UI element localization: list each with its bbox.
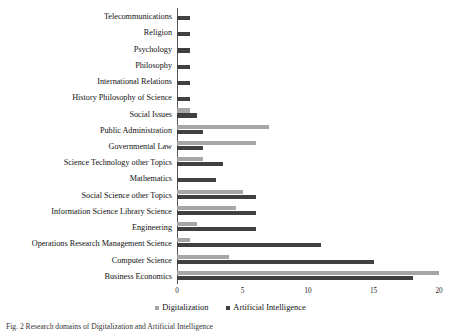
- bar-digitalization: [177, 141, 256, 145]
- category-label: Public Administration: [100, 125, 172, 134]
- bar-row: Engineering: [177, 219, 439, 235]
- bar-artificial-intelligence: [177, 97, 190, 101]
- x-tick-label: 15: [370, 287, 377, 295]
- bar-row: Philosophy: [177, 57, 439, 73]
- legend-item[interactable]: Digitalization: [155, 303, 208, 312]
- bar-artificial-intelligence: [177, 65, 190, 69]
- legend-swatch-icon: [226, 306, 230, 310]
- bar-row: Social Science other Topics: [177, 187, 439, 203]
- bar-artificial-intelligence: [177, 32, 190, 36]
- category-label: Science Technology other Topics: [64, 158, 172, 167]
- bar-row: Social Issues: [177, 105, 439, 121]
- bar-row: Governmental Law: [177, 138, 439, 154]
- category-label: Religion: [144, 28, 172, 37]
- bar-chart: TelecommunicationsReligionPsychologyPhil…: [0, 0, 461, 333]
- bar-digitalization: [177, 125, 269, 129]
- category-label: Engineering: [132, 223, 172, 232]
- bar-artificial-intelligence: [177, 130, 203, 134]
- category-label: Philosophy: [135, 60, 172, 69]
- category-label: Business Economics: [104, 271, 172, 280]
- chart-legend: DigitalizationArtificial Intelligence: [0, 303, 461, 312]
- bar-artificial-intelligence: [177, 113, 197, 117]
- bar-digitalization: [177, 206, 236, 210]
- bar-row: Information Science Library Science: [177, 203, 439, 219]
- bar-row: Religion: [177, 24, 439, 40]
- bar-row: Science Technology other Topics: [177, 154, 439, 170]
- bar-row: Psychology: [177, 40, 439, 56]
- bar-artificial-intelligence: [177, 16, 190, 20]
- category-label: History Philosophy of Science: [72, 93, 172, 102]
- legend-swatch-icon: [155, 306, 159, 310]
- category-label: Social Science other Topics: [82, 190, 172, 199]
- category-label: Governmental Law: [109, 141, 172, 150]
- bar-digitalization: [177, 238, 190, 242]
- bar-artificial-intelligence: [177, 227, 256, 231]
- category-label: Social Issues: [129, 109, 172, 118]
- bar-row: History Philosophy of Science: [177, 89, 439, 105]
- bar-digitalization: [177, 190, 243, 194]
- bar-row: Mathematics: [177, 170, 439, 186]
- bar-row: Public Administration: [177, 122, 439, 138]
- bar-artificial-intelligence: [177, 146, 203, 150]
- x-tick-label: 20: [435, 287, 442, 295]
- x-tick-label: 10: [304, 287, 311, 295]
- bar-row: Computer Science: [177, 252, 439, 268]
- bar-artificial-intelligence: [177, 260, 374, 264]
- category-label: Psychology: [134, 44, 172, 53]
- bar-artificial-intelligence: [177, 195, 256, 199]
- bar-artificial-intelligence: [177, 162, 223, 166]
- x-axis: 05101520: [177, 284, 439, 285]
- bar-artificial-intelligence: [177, 276, 413, 280]
- bar-artificial-intelligence: [177, 48, 190, 52]
- category-label: Mathematics: [130, 174, 172, 183]
- legend-item[interactable]: Artificial Intelligence: [226, 303, 305, 312]
- bar-digitalization: [177, 271, 439, 275]
- bar-digitalization: [177, 222, 197, 226]
- category-label: International Relations: [97, 77, 172, 86]
- bar-row: International Relations: [177, 73, 439, 89]
- bar-artificial-intelligence: [177, 243, 321, 247]
- bar-digitalization: [177, 108, 190, 112]
- bar-row: Telecommunications: [177, 8, 439, 24]
- x-tick-label: 0: [175, 287, 179, 295]
- category-label: Information Science Library Science: [51, 206, 172, 215]
- plot-area: TelecommunicationsReligionPsychologyPhil…: [177, 8, 439, 284]
- x-tick-label: 5: [241, 287, 245, 295]
- bar-digitalization: [177, 157, 203, 161]
- category-label: Computer Science: [112, 255, 172, 264]
- bar-digitalization: [177, 255, 229, 259]
- bar-artificial-intelligence: [177, 211, 256, 215]
- category-label: Operations Research Management Science: [32, 239, 172, 248]
- bar-rows: TelecommunicationsReligionPsychologyPhil…: [177, 8, 439, 284]
- bar-artificial-intelligence: [177, 81, 190, 85]
- legend-label: Artificial Intelligence: [233, 303, 305, 312]
- bar-row: Business Economics: [177, 268, 439, 284]
- bar-row: Operations Research Management Science: [177, 235, 439, 251]
- bar-artificial-intelligence: [177, 178, 216, 182]
- legend-label: Digitalization: [162, 303, 208, 312]
- figure-caption: Fig. 2 Research domains of Digitalizatio…: [6, 322, 456, 331]
- category-label: Telecommunications: [104, 12, 172, 21]
